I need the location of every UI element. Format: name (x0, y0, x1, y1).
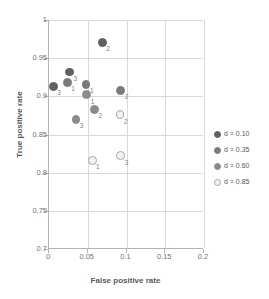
data-point-label: 1 (91, 98, 95, 105)
legend-marker-icon (214, 147, 221, 154)
y-tick-label: 0.8 (7, 169, 47, 177)
y-tick-label: 1 (7, 16, 47, 24)
legend-item-label: d = 0.35 (224, 146, 250, 154)
legend-marker-icon (214, 131, 221, 138)
y-tick-label: 0.95 (7, 54, 47, 62)
gridline-vertical (127, 20, 128, 248)
data-point-label: 3 (57, 89, 61, 96)
gridline-vertical (88, 20, 89, 248)
gridline-vertical (204, 20, 205, 248)
legend-item-label: d = 0.85 (224, 178, 250, 186)
x-tick-label: 0 (28, 253, 68, 261)
x-axis-title: False positive rate (48, 276, 203, 285)
y-tick-label: 0.9 (7, 92, 47, 100)
data-point-label: 3 (125, 159, 129, 166)
legend-item-label: d = 0.60 (224, 162, 250, 170)
data-point-label: 2 (106, 45, 110, 52)
legend-item[interactable]: d = 0.85 (214, 174, 269, 190)
data-point-label: 3 (74, 75, 78, 82)
legend-item[interactable]: d = 0.10 (214, 126, 269, 142)
data-point-label: 2 (125, 93, 129, 100)
data-point-label: 1 (96, 163, 100, 170)
legend-item-label: d = 0.10 (224, 130, 250, 138)
data-point-label: 2 (98, 112, 102, 119)
scatter-chart: True positive rate False positive rate d… (0, 0, 269, 299)
x-tick-label: 0.2 (183, 253, 223, 261)
data-point-label: 2 (124, 118, 128, 125)
chart-legend: d = 0.10d = 0.35d = 0.60d = 0.85 (214, 126, 269, 190)
gridline-vertical (165, 20, 166, 248)
data-point-label: 1 (71, 85, 75, 92)
legend-marker-icon (214, 179, 221, 186)
x-tick-label: 0.1 (106, 253, 146, 261)
x-tick-label: 0.05 (67, 253, 107, 261)
x-tick-label: 0.15 (144, 253, 184, 261)
y-tick-label: 0.75 (7, 207, 47, 215)
y-tick-label: 0.7 (7, 245, 47, 253)
data-point-label: 3 (80, 122, 84, 129)
legend-item[interactable]: d = 0.35 (214, 142, 269, 158)
legend-marker-icon (214, 163, 221, 170)
plot-area (48, 20, 203, 249)
legend-item[interactable]: d = 0.60 (214, 158, 269, 174)
y-tick-label: 0.85 (7, 131, 47, 139)
